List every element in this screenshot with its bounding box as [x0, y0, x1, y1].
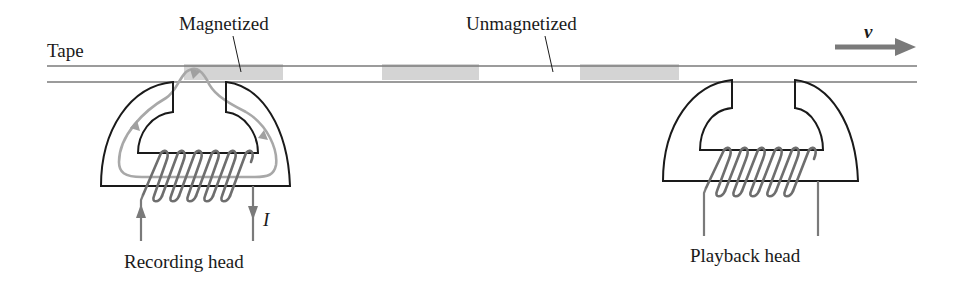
- recording-head-label: Recording head: [124, 251, 244, 272]
- playback-lead-left: [704, 188, 706, 236]
- current-out-arrow-icon: [248, 206, 258, 220]
- magnetized-label: Magnetized: [179, 13, 269, 34]
- playback-head: [663, 80, 858, 236]
- velocity-arrow-icon: [835, 38, 916, 56]
- recording-head: [101, 69, 290, 241]
- tape: [47, 66, 917, 82]
- tape-label: Tape: [47, 40, 84, 61]
- current-label: I: [262, 209, 271, 230]
- current-in-arrow-icon: [136, 204, 146, 218]
- unmagnetized-label: Unmagnetized: [466, 13, 577, 34]
- playback-head-label: Playback head: [690, 245, 801, 266]
- magnetic-tape-diagram: Tape Magnetized Unmagnetized v I Recordi…: [0, 0, 970, 301]
- playback-coil: [706, 148, 816, 196]
- velocity-label: v: [864, 21, 873, 42]
